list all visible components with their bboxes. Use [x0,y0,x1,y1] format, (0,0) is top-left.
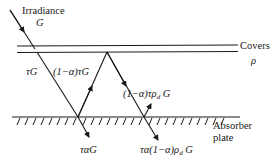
reflected-ray-2-arrow-icon [107,52,126,86]
reflected-second-label-main: (1−α)τρ [123,88,157,99]
reflected-first-label: (1−α)τG [53,67,89,78]
absorbed-second-label: τα(1−α)ρd G [140,145,193,157]
reflected-ray-1-arrow-icon [78,86,92,117]
reflected-ray-3-arrow-icon [144,104,151,117]
cover-bottom-line [17,52,238,53]
irradiance-label: Irradiance [22,6,65,17]
reflected-second-label-suffix: G [160,88,170,99]
plate-label: plate [213,133,233,144]
absorbed-ray-1-arrow-icon [78,117,89,137]
covers-reflectance-symbol: ρ [251,56,256,67]
reflected-second-label: (1−α)τρd G [123,89,170,101]
transmitted-ray [37,52,78,117]
absorber-plate-hatching [17,118,224,125]
covers-label: Covers [240,41,270,52]
absorbed-second-label-main: τα(1−α)ρ [140,144,179,155]
absorbed-first-label: ταG [80,145,97,156]
transmitted-label: τG [26,67,37,78]
absorber-label: Absorber [213,121,252,132]
cover-top-line [17,45,238,46]
radiation-diagram: Irradiance G Covers ρ τG (1−α)τG (1−α)τρ… [0,0,278,163]
absorbed-second-label-suffix: G [183,144,193,155]
irradiance-symbol: G [36,18,44,29]
